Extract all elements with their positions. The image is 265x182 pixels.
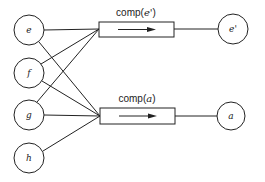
node-f: f xyxy=(14,58,44,88)
node-a-label: a xyxy=(228,111,233,121)
node-e: e xyxy=(14,15,44,45)
processor-comp-a-label: comp(a) xyxy=(118,93,155,104)
edge-g-to-comp-e-prime xyxy=(37,29,99,102)
processor-comp-e-prime-label: comp(e') xyxy=(116,7,156,18)
edges xyxy=(37,29,218,151)
node-g: g xyxy=(14,100,44,130)
node-e-prime: e' xyxy=(218,14,248,44)
edge-e-to-comp-e-prime xyxy=(44,29,99,30)
edge-e-to-comp-a xyxy=(39,42,100,116)
edge-h-to-comp-a xyxy=(43,116,100,151)
node-e-prime-label: e' xyxy=(229,24,237,34)
edge-f-to-comp-a xyxy=(42,81,100,116)
processor-comp-e-prime: comp(e') xyxy=(99,7,174,37)
node-h-label: h xyxy=(26,153,32,163)
node-g-label: g xyxy=(26,110,32,120)
edge-f-to-comp-e-prime xyxy=(41,29,99,64)
node-a: a xyxy=(217,102,245,130)
node-e-label: e xyxy=(26,25,31,35)
computation-diagram: e f g h comp(e') comp(a) e' a xyxy=(0,0,265,182)
edge-g-to-comp-a xyxy=(44,115,100,116)
processor-comp-a: comp(a) xyxy=(100,93,175,124)
node-h: h xyxy=(14,143,44,173)
